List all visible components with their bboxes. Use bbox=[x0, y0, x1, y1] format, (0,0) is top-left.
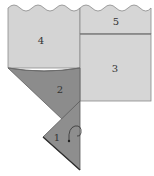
panel-4-label: 4 bbox=[38, 35, 44, 46]
panel-4: 4 bbox=[8, 5, 80, 68]
panel-1-label: 1 bbox=[54, 132, 60, 143]
panel-2-label: 2 bbox=[57, 84, 63, 95]
panel-5-label: 5 bbox=[113, 16, 119, 27]
folding-diagram: 4 5 3 2 1 bbox=[0, 0, 154, 176]
panel-5: 5 bbox=[80, 5, 151, 34]
panel-3-label: 3 bbox=[112, 63, 118, 74]
panel-3: 3 bbox=[80, 34, 151, 101]
